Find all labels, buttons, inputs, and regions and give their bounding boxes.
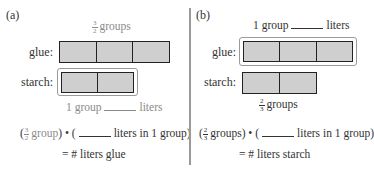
bar-segment — [244, 42, 280, 61]
bar-segment — [243, 73, 280, 93]
bar-segment — [98, 73, 133, 92]
bar-segment — [280, 42, 316, 61]
answer-blank — [291, 19, 323, 29]
answer-blank — [104, 101, 136, 111]
bar-segment — [280, 73, 316, 93]
bar-segment — [317, 42, 352, 61]
bar-segment — [133, 42, 169, 62]
panel-a-top-label: 32groups — [92, 20, 131, 35]
bar-segment — [62, 73, 98, 92]
glue-label: glue: — [3, 45, 53, 60]
glue-bar — [59, 41, 170, 63]
glue-bar — [243, 41, 353, 62]
starch-bar — [242, 72, 317, 94]
bar-segment — [97, 42, 134, 62]
panel-b-equation: (23groups) • (liters in 1 group) — [199, 127, 374, 142]
panel-a-equation-result: = # liters glue — [62, 148, 126, 160]
glue-label: glue: — [186, 45, 236, 60]
panel-b-equation-result: = # liters starch — [239, 148, 310, 160]
panel-b-bottom-label: 23groups — [259, 98, 298, 113]
answer-blank — [79, 127, 111, 137]
bar-segment — [60, 42, 97, 62]
starch-bar — [61, 72, 134, 93]
starch-label: starch: — [186, 75, 236, 90]
panel-a-equation: (32group) • (liters in 1 group) — [20, 127, 191, 142]
panel-b-label: (b) — [196, 8, 210, 23]
panel-a-label: (a) — [6, 8, 19, 23]
starch-label: starch: — [3, 75, 53, 90]
answer-blank — [262, 127, 294, 137]
panel-a-bottom-label: 1 groupliters — [66, 101, 162, 113]
panel-b-top-label: 1 groupliters — [253, 19, 349, 31]
